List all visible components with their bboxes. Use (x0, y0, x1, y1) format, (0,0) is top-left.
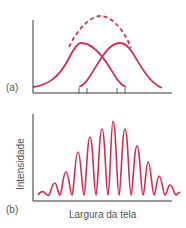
right-envelope-curve (79, 43, 162, 88)
panel-a-label: (a) (6, 82, 18, 93)
y-axis-label: Intensidade (15, 138, 26, 190)
left-envelope-curve (33, 43, 126, 87)
figure (0, 0, 186, 228)
panel-b-label: (b) (6, 204, 18, 215)
interference-fringes-curve (38, 121, 180, 195)
panel-b-axes (33, 114, 172, 201)
x-axis-label: Largura da tela (69, 209, 136, 220)
